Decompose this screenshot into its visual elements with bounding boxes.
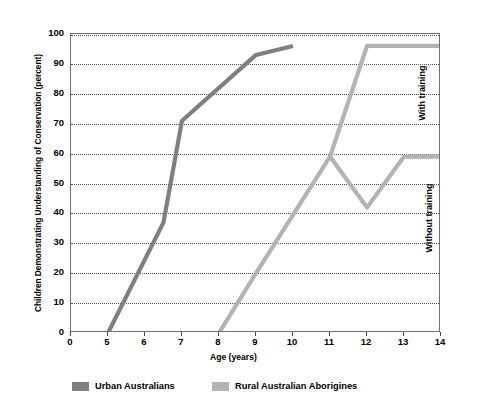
- x-tick-label: 9: [243, 337, 267, 347]
- x-axis-tick: [329, 332, 330, 336]
- x-tick-label: 8: [206, 337, 230, 347]
- x-tick-label: 7: [169, 337, 193, 347]
- x-axis-title: Age (years): [210, 352, 257, 362]
- y-tick-label: 60: [38, 148, 64, 158]
- y-tick-label: 0: [38, 327, 64, 337]
- y-tick-label: 30: [38, 237, 64, 247]
- x-axis-tick: [255, 332, 256, 336]
- y-tick-label: 100: [38, 28, 64, 38]
- x-tick-label: 5: [95, 337, 119, 347]
- x-axis-tick: [107, 332, 108, 336]
- data-lines: [71, 34, 440, 332]
- legend-swatch: [72, 382, 89, 391]
- chart-figure: Children Demonstrating Understanding of …: [0, 0, 477, 410]
- x-axis-tick: [440, 332, 441, 336]
- x-tick-label: 0: [58, 337, 82, 347]
- x-axis-tick: [144, 332, 145, 336]
- legend-item: Rural Australian Aborigines: [212, 381, 357, 391]
- legend-swatch: [212, 382, 229, 391]
- legend-label: Urban Australians: [95, 381, 175, 391]
- y-tick-label: 20: [38, 267, 64, 277]
- y-tick-label: 40: [38, 207, 64, 217]
- legend-label: Rural Australian Aborigines: [235, 381, 357, 391]
- x-axis-tick: [403, 332, 404, 336]
- y-tick-label: 70: [38, 118, 64, 128]
- y-tick-label: 80: [38, 88, 64, 98]
- x-axis-tick: [70, 332, 71, 336]
- y-tick-label: 10: [38, 297, 64, 307]
- x-axis-tick: [292, 332, 293, 336]
- band-label: With training: [417, 65, 427, 120]
- x-tick-label: 11: [317, 337, 341, 347]
- plot-area: With trainingWithout training: [70, 33, 440, 332]
- x-axis-tick: [366, 332, 367, 336]
- series-line-rural-australian-aborigines: [219, 157, 440, 332]
- x-tick-label: 13: [391, 337, 415, 347]
- x-axis-tick: [218, 332, 219, 336]
- band-label: Without training: [424, 184, 434, 253]
- y-tick-label: 50: [38, 178, 64, 188]
- legend-item: Urban Australians: [72, 381, 175, 391]
- x-tick-label: 14: [428, 337, 452, 347]
- x-tick-label: 12: [354, 337, 378, 347]
- y-tick-label: 90: [38, 58, 64, 68]
- x-tick-label: 10: [280, 337, 304, 347]
- x-axis-tick: [181, 332, 182, 336]
- series-line-urban-australians: [108, 46, 293, 332]
- x-tick-label: 6: [132, 337, 156, 347]
